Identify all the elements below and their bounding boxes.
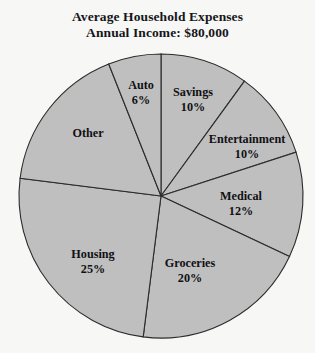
pie-slice-housing — [19, 178, 161, 337]
pie-chart-canvas — [0, 0, 315, 353]
pie-slice-group — [19, 54, 303, 338]
pie-chart-figure: Average Household Expenses Annual Income… — [0, 0, 315, 353]
